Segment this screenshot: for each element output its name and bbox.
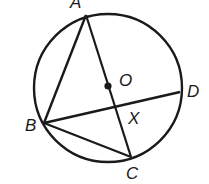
label-b: B (25, 116, 36, 135)
label-d: D (187, 82, 199, 101)
label-c: C (126, 164, 139, 183)
segment-ab (44, 15, 86, 123)
center-point-o (104, 82, 111, 89)
diagram-svg: A B C D O X (0, 0, 209, 184)
geometry-diagram: A B C D O X (0, 0, 209, 184)
label-o: O (119, 71, 132, 90)
label-x: X (127, 109, 140, 128)
label-a: A (69, 0, 81, 12)
